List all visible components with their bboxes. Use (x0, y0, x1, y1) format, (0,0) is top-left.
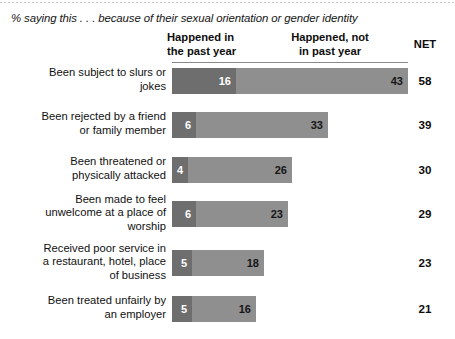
bar-value-not-past-year: 18 (247, 258, 259, 269)
row-category-label-line: a restaurant, hotel, place (8, 255, 166, 269)
row-category-label-line: Been treated unfairly by (8, 294, 166, 308)
row-category-label-line: an employer (8, 308, 166, 322)
stacked-bar: 633 (172, 112, 328, 138)
row-category-label: Been subject to slurs orjokes (8, 66, 166, 93)
stacked-bar: 516 (172, 296, 256, 322)
row-category-label: Been treated unfairly byan employer (8, 294, 166, 321)
stacked-bar: 426 (172, 157, 292, 183)
bar-value-not-past-year: 43 (391, 76, 403, 87)
net-value: 58 (404, 74, 446, 87)
net-value: 21 (404, 302, 446, 315)
row-category-label: Received poor service ina restaurant, ho… (8, 242, 166, 283)
row-category-label-line: Received poor service in (8, 242, 166, 256)
bar-segment-past-year: 4 (172, 157, 188, 183)
bar-segment-past-year: 5 (172, 296, 192, 322)
row-category-label-line: or family member (8, 124, 166, 138)
net-value: 39 (404, 118, 446, 131)
bar-segment-past-year: 5 (172, 250, 192, 276)
row-category-label: Been made to feelunwelcome at a place of… (8, 193, 166, 234)
bar-value-not-past-year: 16 (239, 304, 251, 315)
row-category-label: Been rejected by a friendor family membe… (8, 110, 166, 137)
bar-segment-past-year: 16 (172, 68, 236, 94)
bar-segment-not-past-year: 16 (192, 296, 256, 322)
bar-segment-not-past-year: 18 (192, 250, 264, 276)
row-category-label-line: Been subject to slurs or (8, 66, 166, 80)
row-category-label-line: physically attacked (8, 169, 166, 183)
bar-value-past-year: 5 (181, 304, 187, 315)
net-value: 29 (404, 207, 446, 220)
stacked-bar: 518 (172, 250, 264, 276)
bar-segment-not-past-year: 23 (196, 201, 288, 227)
row-category-label-line: unwelcome at a place of (8, 206, 166, 220)
row-category-label-line: Been made to feel (8, 193, 166, 207)
bar-segment-past-year: 6 (172, 112, 196, 138)
stacked-bar: 1643 (172, 68, 408, 94)
bar-value-past-year: 4 (177, 165, 183, 176)
row-category-label-line: of business (8, 269, 166, 283)
row-category-label-line: jokes (8, 80, 166, 94)
bar-segment-not-past-year: 26 (188, 157, 292, 183)
net-value: 30 (404, 163, 446, 176)
bar-value-past-year: 6 (185, 120, 191, 131)
bar-value-not-past-year: 33 (311, 120, 323, 131)
row-category-label-line: Been rejected by a friend (8, 110, 166, 124)
row-category-label: Been threatened orphysically attacked (8, 155, 166, 182)
bar-plot-area: Been subject to slurs orjokes164358Been … (0, 0, 455, 339)
bar-value-past-year: 5 (181, 258, 187, 269)
bar-segment-past-year: 6 (172, 201, 196, 227)
chart-container: % saying this . . . because of their sex… (0, 0, 455, 339)
bar-value-not-past-year: 26 (275, 165, 287, 176)
row-category-label-line: Been threatened or (8, 155, 166, 169)
stacked-bar: 623 (172, 201, 288, 227)
net-value: 23 (404, 256, 446, 269)
bar-segment-not-past-year: 43 (236, 68, 408, 94)
bar-value-not-past-year: 23 (271, 209, 283, 220)
bar-segment-not-past-year: 33 (196, 112, 328, 138)
row-category-label-line: worship (8, 220, 166, 234)
bar-value-past-year: 16 (219, 76, 231, 87)
bar-value-past-year: 6 (185, 209, 191, 220)
